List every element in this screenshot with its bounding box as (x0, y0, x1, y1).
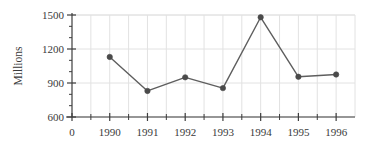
data-point-marker (183, 75, 188, 80)
x-tick-label: 1990 (99, 126, 122, 138)
x-tick-label: 1991 (136, 126, 158, 138)
y-tick-label: 1200 (42, 43, 65, 55)
x-tick-label: 1995 (287, 126, 310, 138)
y-tick-label: 1500 (42, 9, 65, 21)
y-tick-label: 600 (48, 111, 65, 123)
x-tick-label: 0 (69, 126, 75, 138)
y-axis-title: Millions (12, 46, 24, 86)
chart-canvas: 60090012001500 0199019911992199319941995… (0, 0, 371, 155)
data-point-marker (333, 72, 338, 77)
y-tick-label: 900 (48, 77, 65, 89)
x-tick-label: 1994 (250, 126, 273, 138)
x-tick-label: 1996 (325, 126, 348, 138)
data-point-marker (145, 88, 150, 93)
line-chart: 60090012001500 0199019911992199319941995… (0, 0, 371, 155)
data-point-marker (220, 85, 225, 90)
data-point-marker (296, 74, 301, 79)
x-tick-label: 1993 (212, 126, 235, 138)
x-tick-label: 1992 (174, 126, 196, 138)
data-point-marker (258, 15, 263, 20)
data-point-marker (107, 54, 112, 59)
